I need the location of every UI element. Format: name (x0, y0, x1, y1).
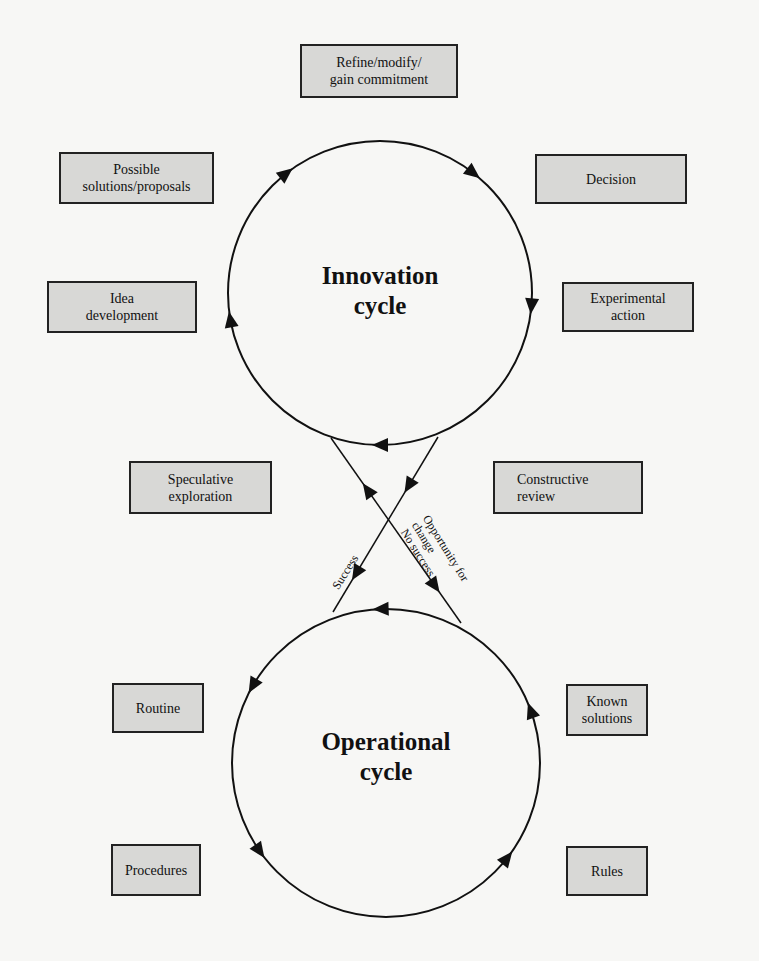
box-idea-development: Idea development (47, 281, 197, 333)
arrowhead-icon-innovation-arrow-upper-right (463, 163, 480, 178)
box-known-solutions: Known solutions (566, 684, 648, 736)
box-routine: Routine (112, 683, 204, 733)
box-rules: Rules (566, 846, 648, 896)
box-speculative-exploration: Speculative exploration (129, 461, 272, 514)
box-constructive-review: Constructive review (493, 461, 643, 514)
box-procedures: Procedures (111, 844, 201, 896)
arrowhead-icon-innovation-arrow-upper-left (276, 168, 293, 183)
arrowhead-icon-success-upper (404, 476, 418, 493)
arrowhead-icon-innovation-arrow-left (225, 312, 239, 329)
operational-cycle-label: Operational cycle (296, 727, 476, 787)
arrowhead-icon-operational-arrow-lower-left (250, 841, 265, 858)
arrowhead-icon-operational-arrow-right (527, 703, 540, 720)
box-experimental-action: Experimental action (562, 282, 694, 332)
box-decision: Decision (535, 154, 687, 204)
box-refine-modify: Refine/modify/ gain commitment (300, 44, 458, 98)
box-possible-solutions: Possible solutions/proposals (59, 152, 214, 204)
diagram-canvas (0, 0, 759, 961)
arrowhead-icon-innovation-arrow-right (525, 298, 539, 315)
arrowhead-icon-innovation-arrow-bottom (372, 438, 388, 452)
arrowhead-icon-operational-arrow-upper-left (249, 676, 263, 693)
arrowhead-icon-operational-arrow-lower-right (497, 852, 512, 869)
innovation-cycle-label: Innovation cycle (290, 261, 470, 321)
arrowhead-icon-opportunity-upper (363, 483, 378, 500)
arrowhead-icon-operational-arrow-top (373, 602, 389, 616)
